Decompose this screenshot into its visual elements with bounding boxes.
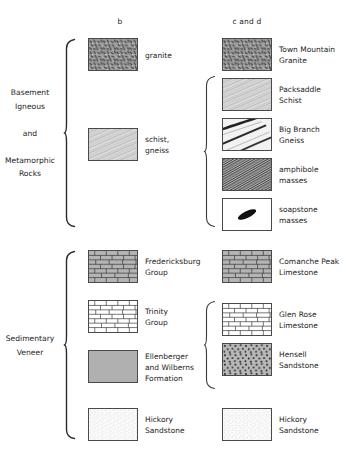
sub-brace-metamorphic-subbrace — [203, 75, 216, 228]
unit-label-amphibole-masses: amphibole masses — [279, 164, 319, 186]
unit-label-hickory-sandstone-b: Hickory Sandstone — [145, 414, 185, 436]
unit-label-hickory-sandstone-cd: Hickory Sandstone — [279, 414, 319, 436]
unit-label-packsaddle-schist: Packsaddle Schist — [279, 84, 321, 106]
unit-label-big-branch-gneiss: Big Branch Gneiss — [279, 124, 320, 146]
sub-brace-trinity-subbrace — [203, 300, 216, 390]
swatch-soapstone-masses[interactable] — [222, 198, 272, 231]
stratigraphic-legend-figure: bc and dBasement Igneous and Metamorphic… — [0, 0, 346, 468]
swatch-hickory-sandstone-b[interactable] — [88, 408, 138, 441]
swatch-town-mountain-granite[interactable] — [222, 38, 272, 71]
unit-label-glen-rose-limestone: Glen Rose Limestone — [279, 309, 318, 331]
column-header-c_and_d: c and d — [232, 17, 261, 26]
unit-label-comanche-peak-limestone: Comanche Peak Limestone — [279, 256, 339, 278]
column-header-b: b — [118, 17, 123, 26]
swatch-big-branch-gneiss[interactable] — [222, 118, 272, 151]
swatch-comanche-peak-limestone[interactable] — [222, 250, 272, 283]
swatch-fill — [89, 351, 137, 382]
swatch-glen-rose-limestone[interactable] — [222, 303, 272, 336]
swatch-hickory-sandstone-cd[interactable] — [222, 408, 272, 441]
swatch-ellenberger-wilberns[interactable] — [88, 350, 138, 383]
unit-label-town-mountain-granite: Town Mountain Granite — [279, 44, 335, 66]
unit-label-schist-gneiss: schist, gneiss — [145, 134, 169, 156]
group-label-sedimentary: Sedimentary Veneer — [0, 332, 60, 359]
swatch-amphibole-masses[interactable] — [222, 158, 272, 191]
group-brace-sedimentary — [63, 250, 76, 440]
swatch-granite[interactable] — [88, 38, 138, 71]
unit-label-granite: granite — [145, 49, 172, 60]
swatch-fredericksburg-group[interactable] — [88, 250, 138, 283]
swatch-hensell-sandstone[interactable] — [222, 343, 272, 376]
unit-label-fredericksburg-group: Fredericksburg Group — [145, 256, 200, 278]
swatch-schist-gneiss[interactable] — [88, 128, 138, 161]
unit-label-soapstone-masses: soapstone masses — [279, 204, 318, 226]
unit-label-ellenberger-wilberns: Ellenberger and Wilberns Formation — [145, 350, 194, 383]
group-label-basement: Basement Igneous and Metamorphic Rocks — [0, 86, 60, 181]
unit-label-trinity-group: Trinity Group — [145, 306, 168, 328]
unit-label-hensell-sandstone: Hensell Sandstone — [279, 349, 319, 371]
group-brace-basement — [63, 38, 76, 228]
swatch-packsaddle-schist[interactable] — [222, 78, 272, 111]
swatch-trinity-group[interactable] — [88, 300, 138, 333]
